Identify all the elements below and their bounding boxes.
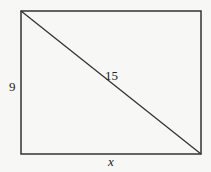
rectangle-diagram: 9 15 x	[0, 0, 211, 172]
bottom-side-label: x	[107, 154, 114, 169]
left-side-label: 9	[9, 79, 16, 94]
diagonal-label: 15	[105, 68, 118, 83]
